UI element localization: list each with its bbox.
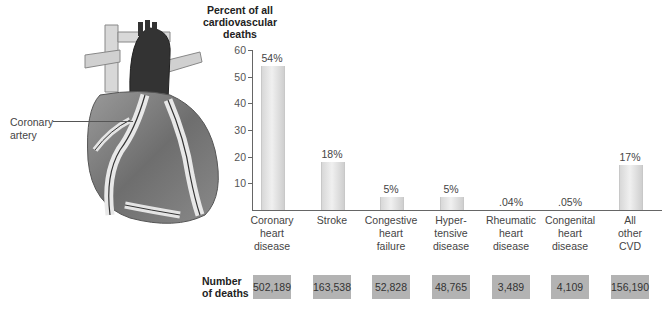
y-tick-label: 40 [226,97,246,109]
y-tick-label: 20 [226,151,246,163]
coronary-artery-leader-line [53,121,133,122]
bar-value-label: 5% [366,183,416,195]
deaths-count-box: 163,538 [313,275,351,299]
category-label-line: other [600,227,660,240]
y-axis-title: Percent of all cardiovascular deaths [190,4,290,40]
y-tick-label: 30 [226,124,246,136]
bar-value-label: 5% [426,183,476,195]
label-line: Coronary [10,116,53,129]
category-label-line: disease [242,240,302,253]
category-label: Congenitalheartdisease [540,214,600,253]
bar [380,197,404,210]
bar [321,162,345,210]
deaths-count-box: 4,109 [551,275,589,299]
y-tick-label: 50 [226,71,246,83]
category-label-line: Congenital [540,214,600,227]
y-axis-title-line: Percent of all [190,4,290,16]
y-axis-title-line: cardiovascular [190,16,290,28]
deaths-count-box: 3,489 [492,275,530,299]
bar-value-label: .04% [486,196,536,208]
deaths-count-box: 48,765 [432,275,470,299]
category-label-line: Stroke [302,214,362,227]
bar-value-label: 54% [247,52,297,64]
category-label-line: tensive [421,227,481,240]
category-label: Rheumaticheartdisease [481,214,541,253]
y-tick [248,50,253,51]
bar-value-label: 18% [307,148,357,160]
category-label-line: heart [242,227,302,240]
category-label: Coronaryheartdisease [242,214,302,253]
title-line: Number [202,275,249,287]
category-label-line: failure [361,240,421,253]
category-label: Stroke [302,214,362,227]
category-label-line: Congestive [361,214,421,227]
category-label-line: disease [421,240,481,253]
deaths-count-box: 156,190 [611,275,649,299]
category-label: AllotherCVD [600,214,660,253]
category-label-line: heart [361,227,421,240]
category-label-line: Coronary [242,214,302,227]
coronary-artery-label: Coronary artery [10,116,53,142]
bar-value-label: 17% [605,151,655,163]
category-label-line: Rheumatic [481,214,541,227]
category-label-line: heart [540,227,600,240]
label-line: artery [10,129,53,142]
y-tick-label: 10 [226,177,246,189]
deaths-count-box: 52,828 [372,275,410,299]
bar-value-label: .05% [545,196,595,208]
category-label-line: disease [540,240,600,253]
category-label-line: heart [481,227,541,240]
category-label-line: CVD [600,240,660,253]
y-tick [248,157,253,158]
y-tick-label: 60 [226,44,246,56]
x-axis [252,210,662,211]
y-tick [248,77,253,78]
title-line: of deaths [202,287,249,299]
category-label-line: All [600,214,660,227]
category-label: Hyper-tensivedisease [421,214,481,253]
y-tick [248,103,253,104]
number-of-deaths-title: Number of deaths [202,275,249,299]
bar [619,165,643,210]
category-label-line: disease [481,240,541,253]
y-axis-title-line: deaths [190,28,290,40]
bar [261,66,285,210]
y-tick [248,130,253,131]
category-label: Congestiveheartfailure [361,214,421,253]
bar [440,197,464,210]
y-tick [248,183,253,184]
category-label-line: Hyper- [421,214,481,227]
deaths-count-box: 502,189 [253,275,291,299]
